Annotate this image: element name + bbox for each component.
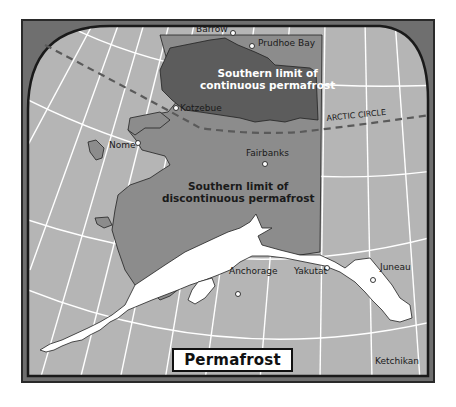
map-title: Permafrost [172,348,293,372]
anchorage-dot [236,292,241,297]
nome-dot [136,141,141,146]
label-yakutat: Yakutat [294,266,327,276]
prudhoe-bay-dot [250,44,255,49]
label-ketchikan: Ketchikan [375,356,419,366]
label-barrow: Barrow [196,24,228,34]
juneau-dot [371,278,376,283]
label-fairbanks: Fairbanks [246,148,289,158]
label-juneau: Juneau [380,262,411,272]
label-continuous-permafrost: Southern limit of continuous permafrost [200,67,335,91]
barrow-dot [231,31,236,36]
fairbanks-dot [263,162,268,167]
label-kotzebue: Kotzebue [180,103,222,113]
label-discontinuous-permafrost: Southern limit of discontinuous permafro… [162,180,315,204]
label-prudhoe-bay: Prudhoe Bay [258,38,315,48]
kotzebue-dot [174,106,179,111]
label-nome: Nome [109,140,136,150]
label-anchorage: Anchorage [229,266,278,276]
